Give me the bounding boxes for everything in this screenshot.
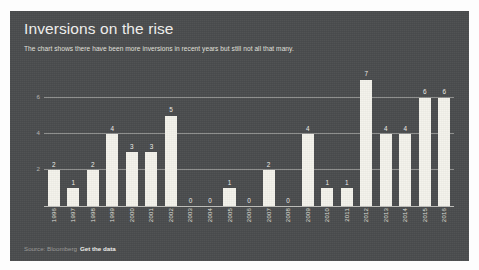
x-axis-label-2014: 2014 bbox=[402, 208, 408, 222]
bar[interactable] bbox=[165, 116, 177, 206]
x-axis-label-slot: 1999 bbox=[103, 208, 123, 242]
bar-group: 2 bbox=[44, 69, 64, 206]
x-axis-label-2003: 2003 bbox=[187, 208, 193, 222]
bar-value-label: 3 bbox=[150, 144, 154, 150]
x-axis-label-slot: 2007 bbox=[259, 208, 279, 242]
x-axis-label-2016: 2016 bbox=[441, 208, 447, 222]
x-axis-label-slot: 1997 bbox=[64, 208, 84, 242]
x-axis-label-2001: 2001 bbox=[148, 208, 154, 222]
bar[interactable] bbox=[380, 134, 392, 206]
x-axis-label-2009: 2009 bbox=[305, 208, 311, 222]
bar-value-label: 0 bbox=[189, 198, 193, 204]
bar-group: 1 bbox=[317, 69, 337, 206]
bar-value-label: 3 bbox=[130, 144, 134, 150]
bar[interactable] bbox=[302, 134, 314, 206]
bar[interactable] bbox=[321, 188, 333, 206]
bar-group: 4 bbox=[396, 69, 416, 206]
chart-subtitle: The chart shows there have been more inv… bbox=[24, 45, 294, 52]
bar[interactable] bbox=[145, 152, 157, 206]
bar[interactable] bbox=[438, 98, 450, 206]
bar-value-label: 2 bbox=[91, 162, 95, 168]
bar-group: 1 bbox=[64, 69, 84, 206]
x-axis-label-slot: 2003 bbox=[181, 208, 201, 242]
x-axis-label-2008: 2008 bbox=[285, 208, 291, 222]
x-axis-label-2005: 2005 bbox=[227, 208, 233, 222]
y-axis-tick-6: 6 bbox=[37, 94, 40, 100]
bar-group: 0 bbox=[181, 69, 201, 206]
x-axis-label-2007: 2007 bbox=[266, 208, 272, 222]
x-axis-label-slot: 2006 bbox=[239, 208, 259, 242]
bar-value-label: 1 bbox=[72, 180, 76, 186]
page-root: Inversions on the rise The chart shows t… bbox=[0, 0, 479, 270]
x-axis-label-slot: 2013 bbox=[376, 208, 396, 242]
bar-value-label: 4 bbox=[111, 126, 115, 132]
x-axis-label-slot: 2015 bbox=[415, 208, 435, 242]
x-axis-label-slot: 2014 bbox=[396, 208, 416, 242]
bar-value-label: 4 bbox=[404, 126, 408, 132]
bar[interactable] bbox=[67, 188, 79, 206]
bar-group: 0 bbox=[200, 69, 220, 206]
bar-value-label: 1 bbox=[345, 180, 349, 186]
x-axis-label-slot: 2000 bbox=[122, 208, 142, 242]
bar-group: 5 bbox=[161, 69, 181, 206]
x-axis-label-slot: 2016 bbox=[435, 208, 455, 242]
bar-value-label: 1 bbox=[228, 180, 232, 186]
bar-group: 6 bbox=[435, 69, 455, 206]
bar-group: 4 bbox=[103, 69, 123, 206]
bar-value-label: 6 bbox=[443, 89, 447, 95]
x-axis-line bbox=[44, 206, 454, 207]
x-axis-label-2004: 2004 bbox=[207, 208, 213, 222]
x-axis-label-slot: 2012 bbox=[357, 208, 377, 242]
get-the-data-link[interactable]: Get the data bbox=[80, 245, 116, 252]
bar-value-label: 4 bbox=[384, 126, 388, 132]
bar-group: 7 bbox=[357, 69, 377, 206]
source-label: Source: Bloomberg bbox=[24, 245, 77, 252]
x-axis-labels: 1996199719981999200020012002200320042005… bbox=[44, 208, 454, 242]
bar-value-label: 7 bbox=[364, 71, 368, 77]
bar-value-label: 6 bbox=[423, 89, 427, 95]
x-axis-label-slot: 2009 bbox=[298, 208, 318, 242]
bar-value-label: 1 bbox=[325, 180, 329, 186]
chart-card: Inversions on the rise The chart shows t… bbox=[10, 11, 469, 261]
x-axis-label-1999: 1999 bbox=[109, 208, 115, 222]
bar-group: 2 bbox=[83, 69, 103, 206]
bar[interactable] bbox=[399, 134, 411, 206]
bar[interactable] bbox=[341, 188, 353, 206]
bar-group: 3 bbox=[142, 69, 162, 206]
x-axis-label-slot: 2011 bbox=[337, 208, 357, 242]
bar[interactable] bbox=[419, 98, 431, 206]
bar[interactable] bbox=[223, 188, 235, 206]
bar[interactable] bbox=[106, 134, 118, 206]
bar[interactable] bbox=[126, 152, 138, 206]
x-axis-label-2010: 2010 bbox=[324, 208, 330, 222]
bar-value-label: 2 bbox=[52, 162, 56, 168]
bar[interactable] bbox=[48, 170, 60, 206]
bar-value-label: 4 bbox=[306, 126, 310, 132]
bar-group: 4 bbox=[376, 69, 396, 206]
x-axis-label-2013: 2013 bbox=[383, 208, 389, 222]
x-axis-label-2011: 2011 bbox=[344, 208, 350, 222]
bar-group: 0 bbox=[278, 69, 298, 206]
bar-value-label: 0 bbox=[286, 198, 290, 204]
bar-group: 6 bbox=[415, 69, 435, 206]
bar-series: 212433500102041174466 bbox=[44, 69, 454, 206]
x-axis-label-2006: 2006 bbox=[246, 208, 252, 222]
chart-footer: Source: BloombergGet the data bbox=[24, 245, 116, 252]
bar[interactable] bbox=[87, 170, 99, 206]
bar-group: 3 bbox=[122, 69, 142, 206]
x-axis-label-2012: 2012 bbox=[363, 208, 369, 222]
bar-group: 1 bbox=[337, 69, 357, 206]
plot-area: 246 212433500102041174466 bbox=[44, 69, 454, 206]
page-title: Inversions on the rise bbox=[24, 20, 174, 38]
bar-group: 1 bbox=[220, 69, 240, 206]
x-axis-label-2002: 2002 bbox=[168, 208, 174, 222]
x-axis-label-1996: 1996 bbox=[51, 208, 57, 222]
y-axis-tick-4: 4 bbox=[37, 130, 40, 136]
bar[interactable] bbox=[263, 170, 275, 206]
bar-value-label: 5 bbox=[169, 107, 173, 113]
y-axis-tick-2: 2 bbox=[37, 166, 40, 172]
bar[interactable] bbox=[360, 80, 372, 206]
x-axis-label-2000: 2000 bbox=[129, 208, 135, 222]
x-axis-label-1997: 1997 bbox=[70, 208, 76, 222]
x-axis-label-slot: 2005 bbox=[220, 208, 240, 242]
